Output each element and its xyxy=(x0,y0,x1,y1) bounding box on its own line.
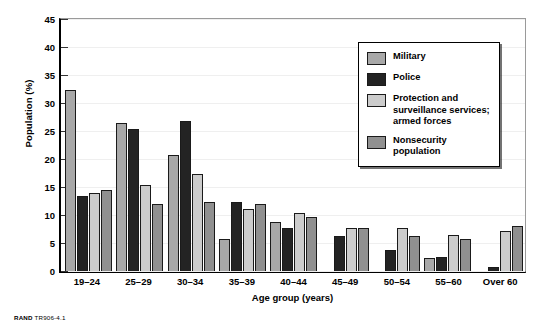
y-axis-title: Population (%) xyxy=(23,34,34,194)
bar-slot xyxy=(243,19,254,271)
y-axis-tick-label: 20 xyxy=(29,154,55,165)
bar[interactable] xyxy=(192,174,203,271)
x-axis-tick-label: 25–29 xyxy=(113,276,165,287)
bar-slot xyxy=(346,19,357,271)
bar[interactable] xyxy=(500,231,511,271)
x-axis-tick-label: 35–39 xyxy=(216,276,268,287)
bar[interactable] xyxy=(180,121,191,271)
x-axis-title: Age group (years) xyxy=(59,292,526,303)
bar-slot xyxy=(255,19,266,271)
y-axis-tick-label: 10 xyxy=(29,210,55,221)
bar[interactable] xyxy=(231,202,242,271)
gridline xyxy=(68,271,525,272)
bar-group xyxy=(217,19,268,271)
legend-swatch xyxy=(367,73,386,86)
x-axis-tick-label: 30–34 xyxy=(164,276,216,287)
legend-label: Protection and surveillance services; ar… xyxy=(393,93,490,128)
bar-slot xyxy=(116,19,127,271)
x-axis-tick-label: 40–44 xyxy=(268,276,320,287)
bar[interactable] xyxy=(116,123,127,271)
bar-slot xyxy=(294,19,305,271)
legend-label: Nonsecurity population xyxy=(393,135,447,158)
bar[interactable] xyxy=(460,239,471,271)
bar-slot xyxy=(101,19,112,271)
bar-slot xyxy=(219,19,230,271)
bar[interactable] xyxy=(488,267,499,271)
legend-swatch xyxy=(367,52,386,65)
bar[interactable] xyxy=(219,239,230,271)
bar-slot xyxy=(168,19,179,271)
bar[interactable] xyxy=(282,228,293,271)
bar-slot xyxy=(282,19,293,271)
bar[interactable] xyxy=(270,222,281,271)
legend-label: Police xyxy=(393,72,420,84)
legend-item[interactable]: Police xyxy=(367,72,491,86)
bar[interactable] xyxy=(512,226,523,271)
y-axis-tick-label: 40 xyxy=(29,42,55,53)
y-axis-tick-label: 30 xyxy=(29,98,55,109)
legend-label: Military xyxy=(393,51,426,63)
bar[interactable] xyxy=(385,250,396,271)
x-axis-tick-labels: 19–2425–2930–3435–3940–4445–4950–5455–60… xyxy=(61,276,526,287)
bar[interactable] xyxy=(77,196,88,271)
legend-item[interactable]: Military xyxy=(367,51,491,65)
bar[interactable] xyxy=(448,235,459,271)
bar-slot xyxy=(334,19,345,271)
bar-slot xyxy=(270,19,281,271)
credit-code: TR906-4.1 xyxy=(35,314,66,321)
bar-slot xyxy=(152,19,163,271)
bar-slot xyxy=(77,19,88,271)
bar[interactable] xyxy=(409,236,420,271)
bar-slot xyxy=(306,19,317,271)
figure: Population (%) 051015202530354045 19–242… xyxy=(0,0,541,334)
bar-slot xyxy=(512,19,523,271)
bar-group xyxy=(166,19,217,271)
figure-credit: RAND TR906-4.1 xyxy=(14,314,66,321)
bar-slot xyxy=(192,19,203,271)
bar[interactable] xyxy=(255,204,266,271)
bar[interactable] xyxy=(168,155,179,271)
bar[interactable] xyxy=(346,228,357,271)
bar[interactable] xyxy=(204,202,215,271)
x-axis-tick-label: 50–54 xyxy=(371,276,423,287)
legend: MilitaryPoliceProtection and surveillanc… xyxy=(358,42,500,167)
bar[interactable] xyxy=(89,193,100,271)
bar[interactable] xyxy=(436,257,447,271)
bar-slot xyxy=(140,19,151,271)
legend-item[interactable]: Nonsecurity population xyxy=(367,135,491,158)
y-axis-tick-label: 25 xyxy=(29,126,55,137)
bar-slot xyxy=(128,19,139,271)
bar[interactable] xyxy=(65,90,76,271)
x-axis-tick-label: Over 60 xyxy=(474,276,526,287)
legend-swatch xyxy=(367,136,386,149)
bar-slot xyxy=(204,19,215,271)
y-axis-tick-mark xyxy=(61,271,68,272)
bar[interactable] xyxy=(334,236,345,271)
x-axis-tick-label: 19–24 xyxy=(61,276,113,287)
bar-slot xyxy=(322,19,333,271)
legend-swatch xyxy=(367,94,386,107)
bar-slot xyxy=(180,19,191,271)
bar[interactable] xyxy=(152,204,163,271)
bar-group xyxy=(268,19,319,271)
x-axis-tick-label: 55–60 xyxy=(423,276,475,287)
bar-slot xyxy=(65,19,76,271)
bar-slot xyxy=(231,19,242,271)
bar[interactable] xyxy=(243,209,254,271)
bar-slot xyxy=(89,19,100,271)
bar[interactable] xyxy=(306,217,317,271)
y-axis-tick-label: 35 xyxy=(29,70,55,81)
bar[interactable] xyxy=(128,129,139,271)
legend-item[interactable]: Protection and surveillance services; ar… xyxy=(367,93,491,128)
bar[interactable] xyxy=(140,185,151,271)
bar[interactable] xyxy=(397,228,408,271)
bar[interactable] xyxy=(424,258,435,271)
credit-brand: RAND xyxy=(14,314,33,321)
bar[interactable] xyxy=(358,228,369,271)
y-axis-tick-label: 45 xyxy=(29,14,55,25)
bar[interactable] xyxy=(101,190,112,271)
y-axis-tick-label: 15 xyxy=(29,182,55,193)
y-axis-tick-label: 5 xyxy=(29,238,55,249)
y-axis-tick-label: 0 xyxy=(29,266,55,277)
bar[interactable] xyxy=(294,213,305,271)
